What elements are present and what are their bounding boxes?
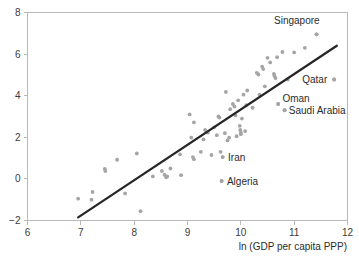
data-point (103, 169, 107, 173)
annotation-label: Saudi Arabia (289, 105, 346, 116)
annotated-data-point (315, 32, 319, 36)
data-point (257, 73, 261, 77)
data-point (263, 84, 267, 88)
y-tick-label: 6 (15, 49, 21, 60)
scatter-plot-figure: 6789101112 −202468 SingaporeQatarOmanSau… (0, 0, 359, 258)
data-point (268, 61, 272, 65)
data-point (189, 136, 193, 140)
data-point (274, 76, 278, 80)
x-tick-label: 10 (235, 227, 247, 238)
data-point (240, 117, 244, 121)
x-axis-tick-labels: 6789101112 (25, 227, 354, 238)
annotated-data-point (220, 179, 224, 183)
data-point (266, 56, 270, 60)
data-point (261, 67, 265, 71)
data-point (76, 197, 80, 201)
data-point (228, 107, 232, 111)
data-points (76, 32, 336, 213)
data-point (223, 131, 227, 135)
data-point (292, 51, 296, 55)
data-point (239, 132, 243, 136)
data-point (160, 169, 164, 173)
data-point (123, 192, 127, 196)
data-point (188, 113, 192, 117)
data-point (179, 173, 183, 177)
data-point (139, 209, 143, 213)
data-point (281, 50, 285, 54)
y-tick-label: −2 (9, 215, 21, 226)
annotated-data-point (283, 108, 287, 112)
data-point (202, 137, 206, 141)
annotated-data-point (332, 78, 336, 82)
plot-frame-border (28, 13, 348, 221)
data-point (219, 150, 223, 154)
x-tick-label: 11 (289, 227, 300, 238)
annotation-label: Iran (228, 152, 245, 163)
data-point (245, 89, 249, 93)
data-point (227, 136, 231, 140)
data-point (218, 116, 222, 120)
data-point (165, 175, 169, 179)
data-point (151, 175, 155, 179)
data-point (242, 93, 246, 97)
plot-frame (28, 13, 348, 221)
annotation-label: Singapore (274, 15, 320, 26)
data-point (233, 105, 237, 109)
data-point (238, 124, 242, 128)
x-axis-ticks (28, 221, 348, 225)
data-point (236, 98, 240, 102)
data-point (90, 198, 94, 202)
y-axis-ticks (24, 13, 28, 221)
annotation-label: Oman (282, 93, 309, 104)
y-tick-label: 2 (15, 132, 21, 143)
data-point (169, 167, 173, 171)
x-tick-label: 7 (78, 227, 84, 238)
y-tick-label: 8 (15, 7, 21, 18)
data-point (243, 129, 247, 133)
data-point (235, 134, 239, 138)
data-point (210, 153, 214, 157)
data-point (135, 152, 139, 156)
x-tick-label: 12 (342, 227, 354, 238)
data-point (275, 55, 279, 59)
x-tick-label: 6 (25, 227, 31, 238)
y-tick-label: 4 (15, 90, 21, 101)
data-point (224, 90, 228, 94)
annotated-data-point (276, 102, 280, 106)
chart-canvas: 6789101112 −202468 SingaporeQatarOmanSau… (0, 0, 359, 258)
trend-line (78, 46, 337, 218)
annotated-data-point (221, 155, 225, 159)
y-tick-label: 0 (15, 173, 21, 184)
data-point (303, 46, 307, 50)
data-point (178, 152, 182, 156)
data-point (251, 106, 255, 110)
data-point (215, 133, 219, 137)
x-tick-label: 9 (185, 227, 191, 238)
data-point (192, 120, 196, 124)
data-point (199, 150, 203, 154)
x-tick-label: 8 (131, 227, 137, 238)
annotation-label: Qatar (302, 74, 328, 85)
y-axis-tick-labels: −202468 (9, 7, 21, 226)
data-point (91, 190, 95, 194)
annotation-label: Algeria (227, 176, 259, 187)
x-axis-title: ln (GDP per capita PPP) (239, 241, 347, 252)
data-point (192, 157, 196, 161)
data-point (115, 158, 119, 162)
